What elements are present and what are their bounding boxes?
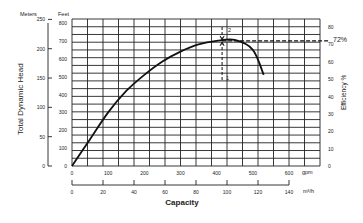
meters-tick-label: 250	[37, 16, 46, 22]
meters-tick-label: 200	[37, 46, 46, 52]
efficiency-tick-label: 0	[328, 163, 331, 169]
m3h-tick-label: 0	[71, 189, 74, 195]
gpm-unit-label: gpm	[302, 169, 313, 175]
gpm-tick-label: 500	[249, 170, 258, 176]
m3h-tick-label: 20	[100, 189, 106, 195]
feet-tick-label: 300	[59, 109, 68, 115]
feet-tick-label: 400	[59, 92, 68, 98]
gpm-tick-label: 600	[285, 170, 294, 176]
x-axis-title: Capacity	[165, 198, 199, 207]
marker-1-label: 1	[226, 75, 229, 81]
efficiency-tick-label: 10	[328, 146, 334, 152]
efficiency-tick-label: 60	[328, 59, 334, 65]
efficiency-tick-label: 50	[328, 76, 334, 82]
gpm-tick-label: 200	[140, 170, 149, 176]
gpm-tick-label: 300	[176, 170, 185, 176]
m3h-tick-label: 120	[254, 189, 263, 195]
feet-tick-label: 800	[59, 20, 68, 26]
meters-tick-label: 100	[37, 104, 46, 110]
feet-tick-label: 600	[59, 56, 68, 62]
m3h-tick-label: 60	[162, 189, 168, 195]
m3h-tick-label: 100	[223, 189, 232, 195]
feet-tick-label: 100	[59, 145, 68, 151]
feet-tick-label: 700	[59, 38, 68, 44]
efficiency-tick-label: 30	[328, 111, 334, 117]
m3h-tick-label: 140	[285, 189, 294, 195]
meters-unit-label: Meters	[20, 11, 37, 17]
meters-tick-label: 0	[42, 163, 45, 169]
left-axis-title: Total Dynamic Head	[16, 63, 25, 135]
head-curve-line	[72, 39, 264, 166]
feet-tick-label: 200	[59, 127, 68, 133]
efficiency-72-label: 72%	[333, 36, 347, 43]
m3h-unit-label: m³/h	[303, 188, 314, 194]
meters-tick-label: 150	[37, 75, 46, 81]
marker-2-label: 2	[228, 27, 231, 33]
right-axis-title: Efficiency %	[340, 74, 348, 110]
efficiency-tick-label: 40	[328, 94, 334, 100]
feet-unit-label: Feet	[58, 11, 69, 17]
m3h-tick-label: 80	[193, 189, 199, 195]
gpm-tick-label: 400	[212, 170, 221, 176]
meters-tick-label: 50	[39, 134, 45, 140]
feet-tick-label: 500	[59, 74, 68, 80]
efficiency-tick-label: 80	[328, 24, 334, 30]
gpm-tick-label: 100	[104, 170, 113, 176]
feet-tick-label: 0	[64, 163, 67, 169]
efficiency-tick-label: 20	[328, 128, 334, 134]
pump-curve-chart: 0100200300400500600700800050100150200250…	[0, 0, 363, 223]
gpm-tick-label: 0	[71, 170, 74, 176]
m3h-tick-label: 40	[131, 189, 137, 195]
